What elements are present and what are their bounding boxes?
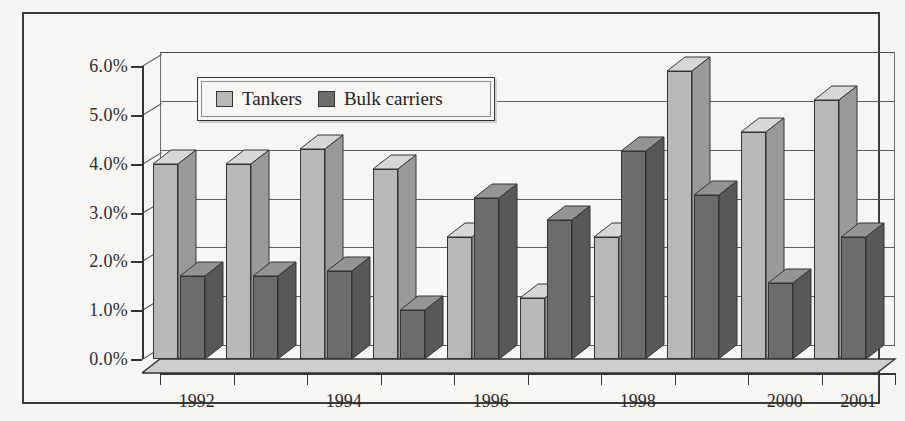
y-axis-tick (131, 115, 142, 117)
x-axis-tick (822, 373, 823, 385)
legend-label-tankers: Tankers (242, 88, 302, 110)
bar-front-face (447, 237, 472, 359)
bar-side-face (646, 137, 666, 361)
bar-front-face (253, 276, 278, 359)
bar-bulk-carriers-1996 (474, 198, 499, 359)
x-axis-tick-label: 1998 (620, 391, 656, 412)
bar-front-face (520, 298, 545, 359)
bar-front-face (768, 283, 793, 359)
bar-side-face (205, 262, 225, 361)
bar-bulk-carriers-1995 (400, 310, 425, 359)
x-axis-tick-label: 1994 (326, 391, 362, 412)
legend-entry-bulk-carriers: Bulk carriers (318, 88, 443, 110)
bar-tankers-1993 (226, 164, 251, 359)
bar-front-face (153, 164, 178, 359)
bar-front-face (300, 149, 325, 359)
bar-front-face (327, 271, 352, 359)
bar-tankers-1996 (447, 237, 472, 359)
y-axis-tick (131, 213, 142, 215)
x-axis-tick (381, 373, 382, 385)
figure-border: 0.0%1.0%2.0%3.0%4.0%5.0%6.0% 19921994199… (22, 12, 880, 404)
legend-inner: Tankers Bulk carriers (201, 81, 491, 117)
value-axis (142, 66, 144, 359)
x-axis-tick-label: 2000 (767, 391, 803, 412)
bar-front-face (741, 132, 766, 359)
y-axis-tick-label: 5.0% (89, 104, 128, 125)
legend-swatch-bulk-carriers-icon (318, 91, 335, 107)
bar-tankers-1998 (594, 237, 619, 359)
y-axis-tick (131, 359, 142, 361)
y-axis-tick-label: 1.0% (89, 300, 128, 321)
legend-entry-tankers: Tankers (216, 88, 302, 110)
y-axis-tick (131, 261, 142, 263)
y-axis-tick (131, 66, 142, 68)
y-axis-tick-label: 0.0% (89, 349, 128, 370)
bar-side-face (425, 296, 445, 361)
x-axis-tick-label: 1992 (179, 391, 215, 412)
bar-tankers-2001 (814, 100, 839, 359)
gridline-connector (142, 103, 162, 116)
bar-front-face (667, 71, 692, 359)
x-axis-tick (307, 373, 308, 385)
bar-side-face (866, 223, 886, 361)
gridline-connector (142, 54, 162, 67)
bar-front-face (694, 195, 719, 359)
bar-front-face (180, 276, 205, 359)
legend-swatch-tankers-icon (216, 91, 233, 107)
y-axis-tick-label: 6.0% (89, 56, 128, 77)
bar-bulk-carriers-1999 (694, 195, 719, 359)
x-axis-tick (748, 373, 749, 385)
bar-front-face (547, 220, 572, 359)
y-axis-tick-label: 3.0% (89, 202, 128, 223)
x-axis-tick (234, 373, 235, 385)
bar-bulk-carriers-1998 (621, 151, 646, 359)
bar-front-face (400, 310, 425, 359)
bar-side-face (719, 181, 739, 361)
bar-front-face (841, 237, 866, 359)
bar-bulk-carriers-1992 (180, 276, 205, 359)
bar-tankers-1997 (520, 298, 545, 359)
chart-legend: Tankers Bulk carriers (197, 77, 495, 121)
bar-tankers-1999 (667, 71, 692, 359)
bar-front-face (474, 198, 499, 359)
bar-tankers-1992 (153, 164, 178, 359)
x-axis-tick (160, 373, 161, 385)
x-axis-tick-label: 2001 (840, 391, 876, 412)
bar-tankers-2000 (741, 132, 766, 359)
x-axis-tick (528, 373, 529, 385)
x-axis-tick (675, 373, 676, 385)
bar-side-face (278, 262, 298, 361)
x-axis-tick (895, 373, 896, 385)
bar-side-face (352, 257, 372, 361)
y-axis-tick (131, 310, 142, 312)
x-axis-tick (601, 373, 602, 385)
bar-front-face (621, 151, 646, 359)
bar-tankers-1994 (300, 149, 325, 359)
gridline (160, 52, 895, 53)
figure-container: 0.0%1.0%2.0%3.0%4.0%5.0%6.0% 19921994199… (0, 0, 905, 421)
bar-front-face (226, 164, 251, 359)
bar-side-face (572, 206, 592, 361)
bar-front-face (594, 237, 619, 359)
x-axis-tick-label: 1996 (473, 391, 509, 412)
bar-bulk-carriers-2001 (841, 237, 866, 359)
bar-bulk-carriers-1997 (547, 220, 572, 359)
legend-label-bulk-carriers: Bulk carriers (344, 88, 443, 110)
y-axis-tick-label: 4.0% (89, 153, 128, 174)
bar-side-face (499, 184, 519, 361)
x-axis-tick (454, 373, 455, 385)
bar-bulk-carriers-1993 (253, 276, 278, 359)
bar-tankers-1995 (373, 169, 398, 359)
bar-bulk-carriers-1994 (327, 271, 352, 359)
bar-bulk-carriers-2000 (768, 283, 793, 359)
y-axis-tick-label: 2.0% (89, 251, 128, 272)
bar-side-face (793, 269, 813, 361)
bar-front-face (373, 169, 398, 359)
bar-front-face (814, 100, 839, 359)
y-axis-tick (131, 164, 142, 166)
